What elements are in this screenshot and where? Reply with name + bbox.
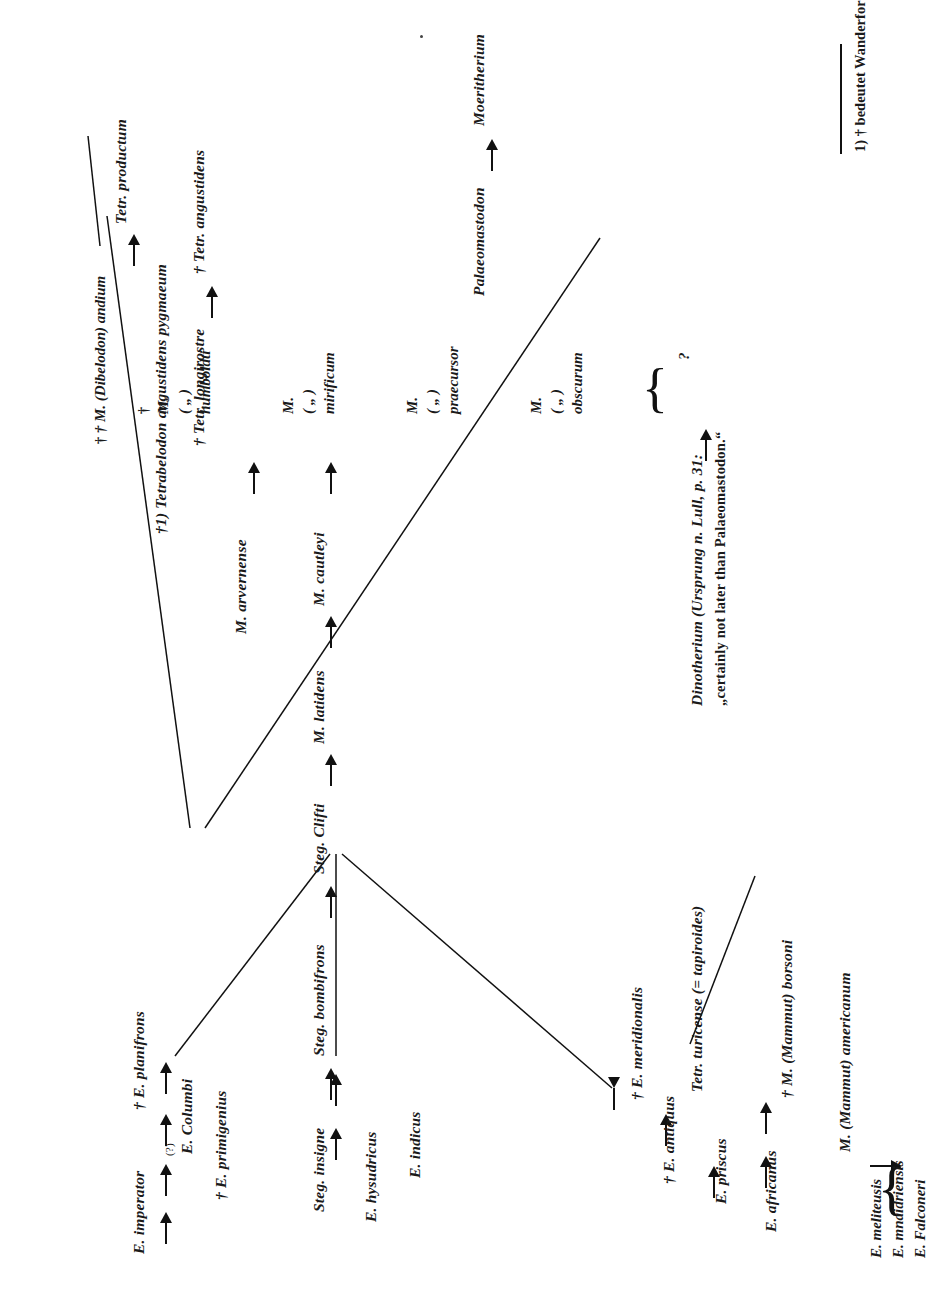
arrow-turicense-to-borsoni — [760, 1102, 772, 1134]
node-tetr-longirostre: † Tetr. longirostre — [190, 329, 208, 446]
list-item: E. mnaidriensis — [888, 1160, 910, 1258]
node-steg-clifti: Steg. Clifti — [310, 804, 328, 874]
list-item: E. meliteusis — [866, 1160, 888, 1258]
node-e-imperator: E. imperator — [130, 1171, 148, 1254]
node-tetr-angustidens: † Tetr. angustidens — [190, 150, 208, 274]
node-e-planifrons: † E. planifrons — [130, 1011, 148, 1110]
dagger-spacer — [384, 411, 399, 415]
node-tetr-turicense: Tetr. turicense (= tapiroides) — [688, 906, 706, 1092]
node-e-antiquus: † E. antiquus — [660, 1096, 678, 1184]
list-item: M. ( „ ) mirificum — [236, 346, 360, 444]
footnote-divider — [840, 44, 842, 154]
node-e-columbi-query: (?) — [163, 1143, 176, 1156]
dibelodon-header-row: † † M. (Dibelodon) andium — [90, 276, 112, 444]
footnote-text: 1) † bedeutet Wanderform. — [852, 0, 869, 152]
node-e-columbi: E. Columbi — [178, 1079, 196, 1154]
dinotherium-question-mark: ? — [676, 353, 693, 361]
node-steg-insigne: Steg. insigne — [310, 1128, 328, 1212]
arrow-latidens-to-steg-clifti — [325, 754, 337, 786]
dibelodon-row-1: M. — [280, 397, 296, 414]
malta-species-list: E. meliteusis E. mnaidriensis E. Falcone… — [866, 1160, 930, 1258]
dagger-icon: † — [136, 407, 151, 414]
node-m-dibelodon-andium: † M. (Dibelodon) andium — [92, 276, 108, 434]
arrow-insigne-to-planifrons — [160, 1062, 172, 1094]
dibelodon-row-3-species: obscurum — [569, 352, 585, 414]
dinotherium-brace: { — [642, 361, 668, 415]
node-e-primigenius: † E. primigenius — [212, 1090, 230, 1200]
node-dinotherium-quote: „certainly not later than Palaeomastodon… — [712, 432, 729, 706]
list-item: M. ( „ ) obscurum — [484, 346, 608, 444]
arrow-clifti-to-bombifrons — [325, 886, 337, 918]
dibelodon-row-2-subgenus: ( „ ) — [424, 389, 440, 414]
node-dinotherium: Dinotherium (Ursprung n. Lull, p. 31: — [688, 454, 706, 706]
node-e-priscus: E. priscus — [712, 1138, 730, 1204]
arrow-borsoni-to-americanum — [760, 1156, 772, 1188]
dibelodon-row-1-species: mirificum — [321, 352, 337, 414]
node-e-meridionalis: † E. meridionalis — [628, 987, 646, 1100]
arrow-planifrons-to-imperator — [160, 1114, 172, 1146]
dibelodon-row-2: M. — [404, 397, 420, 414]
dibelodon-species-list: † M. ( „ ) humboldti M. ( „ ) mirificum … — [112, 346, 609, 444]
dagger-spacer — [260, 411, 275, 415]
list-item: E. Falconeri — [910, 1160, 930, 1258]
node-m-mammut-borsoni: † M. (Mammut) borsoni — [778, 940, 796, 1098]
page-speck — [420, 35, 423, 38]
node-m-arvernense: M. arvernense — [232, 539, 250, 634]
node-tetr-productum: Tetr. productum — [112, 119, 130, 224]
list-item: † M. ( „ ) humboldti — [112, 346, 236, 444]
dibelodon-row-0: M. — [155, 397, 171, 414]
arrow-moeritherium-to-palaeomastodon — [486, 139, 498, 171]
arrow-cautleyi-to-latidens — [325, 616, 337, 648]
arrow-longirostre-to-cautleyi — [325, 462, 337, 494]
dagger-spacer — [508, 411, 523, 415]
node-moeritherium: Moeritherium — [470, 34, 488, 126]
arrow-imperator-to-columbi — [160, 1164, 172, 1196]
dibelodon-group: † † M. (Dibelodon) andium — [90, 276, 112, 444]
dibelodon-row-3-subgenus: ( „ ) — [548, 389, 564, 414]
node-e-hysudricus: E. hysudricus — [362, 1132, 380, 1222]
list-item: M. ( „ ) praecursor — [360, 346, 484, 444]
arrow-insigne-to-hysudricus — [330, 1074, 342, 1106]
dagger-icon: † — [93, 437, 108, 444]
dibelodon-row-1-subgenus: ( „ ) — [300, 389, 316, 414]
arrow-productum-to-dibelodon — [128, 234, 140, 266]
node-m-latidens: M. latidens — [310, 670, 328, 744]
node-m-mammut-americanum: M. (Mammut) americanum — [836, 972, 854, 1152]
node-steg-bombifrons: Steg. bombifrons — [310, 944, 328, 1056]
dibelodon-row-3: M. — [528, 397, 544, 414]
dibelodon-row-2-species: praecursor — [445, 346, 461, 414]
arrow-angustidens-to-longirostre — [206, 286, 218, 318]
arrow-insigne-to-meridionalis — [608, 1078, 620, 1110]
arrow-longirostre-to-arvernense — [248, 462, 260, 494]
arrow-columbi-to-primigenius — [160, 1212, 172, 1244]
node-m-cautleyi: M. cautleyi — [310, 532, 328, 606]
node-e-indicus: E. indicus — [406, 1111, 424, 1178]
node-palaeomastodon: Palaeomastodon — [470, 187, 488, 296]
arrow-hysudricus-to-indicus — [330, 1128, 342, 1160]
